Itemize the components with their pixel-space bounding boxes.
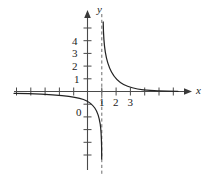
y-tick-label-1: 1 xyxy=(74,74,80,85)
curve-right-branch xyxy=(103,22,178,91)
x-tick-label-3: 3 xyxy=(128,97,134,108)
x-axis-arrow xyxy=(184,88,192,95)
y-tick-label-4: 4 xyxy=(72,36,78,47)
y-tick-label-3: 3 xyxy=(72,48,78,59)
y-axis-arrow xyxy=(84,10,91,18)
curve-left-branch xyxy=(14,93,102,159)
y-axis-label: y xyxy=(97,4,102,15)
y-tick-label-2: 2 xyxy=(72,61,78,72)
graph-figure: 4 3 2 1 0 1 2 3 y x xyxy=(0,0,212,180)
origin-label: 0 xyxy=(76,107,82,118)
x-tick-label-2: 2 xyxy=(113,97,119,108)
y-axis xyxy=(84,10,91,170)
plot-canvas xyxy=(0,0,212,180)
x-axis-label: x xyxy=(196,85,201,96)
x-tick-label-1: 1 xyxy=(99,97,105,108)
